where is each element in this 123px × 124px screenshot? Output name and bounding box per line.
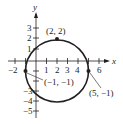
point-5-neg1 (87, 69, 91, 73)
y-tick-label: 1 (27, 44, 32, 54)
leader-line-p3 (90, 73, 101, 88)
y-axis-label: y (32, 2, 37, 12)
x-axis-arrow-icon (104, 59, 110, 63)
y-tick-label: −5 (23, 106, 33, 116)
point-label: (2, 2) (46, 26, 66, 36)
x-tick-label: 3 (65, 65, 70, 75)
y-tick-label: 3 (27, 23, 32, 33)
x-tick-label: 1 (44, 65, 49, 75)
leader-line-p2 (27, 73, 43, 80)
y-axis-arrow-icon (34, 12, 38, 18)
x-axis-label: x (111, 56, 116, 66)
x-tick-label: −2 (8, 65, 18, 75)
point-neg1-neg1 (24, 69, 28, 73)
circle-graph: x y −2 1 2 3 4 6 3 2 1 −3 −4 −5 (2, 2) (… (0, 0, 123, 124)
point-label: (−1, −1) (44, 77, 74, 87)
x-tick-label: 2 (55, 65, 60, 75)
point-label: (5, −1) (89, 88, 114, 98)
point-2-2 (55, 37, 59, 41)
y-tick-label: −3 (23, 86, 33, 96)
x-tick-label: 4 (75, 65, 80, 75)
y-tick-label: −4 (23, 96, 33, 106)
x-tick-label: 6 (97, 65, 102, 75)
y-tick-label: 2 (27, 33, 32, 43)
